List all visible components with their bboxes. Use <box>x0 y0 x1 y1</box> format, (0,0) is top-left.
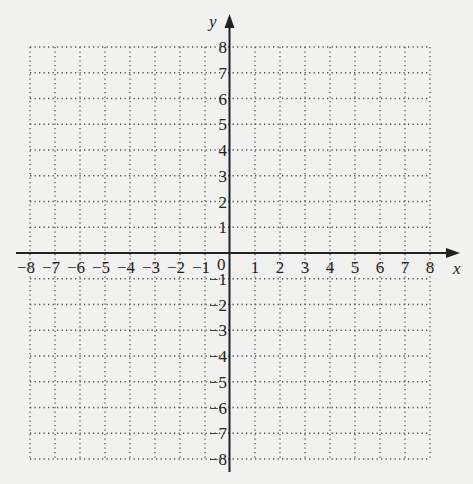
y-tick-label: −2 <box>209 296 227 315</box>
y-tick-label: 4 <box>219 141 228 160</box>
y-tick-label: −7 <box>209 424 228 443</box>
y-tick-label: −6 <box>209 399 227 418</box>
x-tick-label: −5 <box>92 258 110 277</box>
x-tick-label: 5 <box>351 258 360 277</box>
x-axis-arrow-icon <box>446 248 460 258</box>
axes <box>16 14 460 472</box>
y-axis-arrow-icon <box>225 14 235 28</box>
y-tick-label: 2 <box>219 193 228 212</box>
x-tick-label: −4 <box>117 258 136 277</box>
y-tick-label: 5 <box>219 115 228 134</box>
x-tick-label: −7 <box>42 258 61 277</box>
x-tick-label: 4 <box>326 258 335 277</box>
y-tick-label: 7 <box>219 64 228 83</box>
origin-label: 0 <box>217 255 226 274</box>
x-tick-label: −2 <box>167 258 185 277</box>
y-tick-label: 8 <box>219 38 228 57</box>
y-tick-label: −5 <box>209 373 227 392</box>
y-tick-label: −8 <box>209 450 227 469</box>
y-tick-label: 3 <box>219 167 228 186</box>
coordinate-plane: −8−7−6−5−4−3−2−112345678−8−7−6−5−4−3−2−1… <box>0 0 473 484</box>
y-tick-label: 1 <box>219 218 228 237</box>
x-tick-label: 3 <box>301 258 310 277</box>
x-tick-label: −8 <box>17 258 35 277</box>
x-tick-label: 6 <box>376 258 385 277</box>
y-tick-label: −4 <box>209 347 228 366</box>
y-axis-label: y <box>207 12 217 31</box>
x-axis-label: x <box>452 259 461 278</box>
x-tick-label: −1 <box>192 258 210 277</box>
x-tick-label: −3 <box>142 258 160 277</box>
x-tick-label: 7 <box>401 258 410 277</box>
y-tick-label: −3 <box>209 321 227 340</box>
y-tick-label: 6 <box>219 90 228 109</box>
x-tick-label: −6 <box>67 258 85 277</box>
x-tick-label: 1 <box>251 258 260 277</box>
x-tick-label: 2 <box>276 258 285 277</box>
x-tick-label: 8 <box>426 258 435 277</box>
